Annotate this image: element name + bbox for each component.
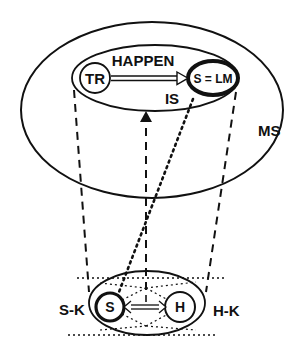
speaker-hearer-arrow	[124, 301, 166, 313]
s-k-label: S-K	[59, 301, 85, 318]
landmark-label: S = LM	[193, 72, 232, 86]
ms-label: MS	[258, 122, 281, 139]
h-k-label: H-K	[213, 302, 240, 319]
right-dashed-connector	[206, 92, 236, 292]
blend-diagram: TR S = LM HAPPEN IS MS S H	[0, 0, 297, 354]
is-label: IS	[165, 90, 179, 107]
ms-space-ellipse	[21, 22, 283, 198]
up-arrowhead-icon	[140, 111, 152, 122]
trajector-label: TR	[85, 70, 105, 87]
hearer-label: H	[175, 299, 185, 315]
speaker-label: S	[105, 299, 114, 315]
happen-arrow	[111, 72, 188, 85]
left-dashed-connector	[74, 90, 89, 292]
happen-label: HAPPEN	[112, 52, 175, 69]
